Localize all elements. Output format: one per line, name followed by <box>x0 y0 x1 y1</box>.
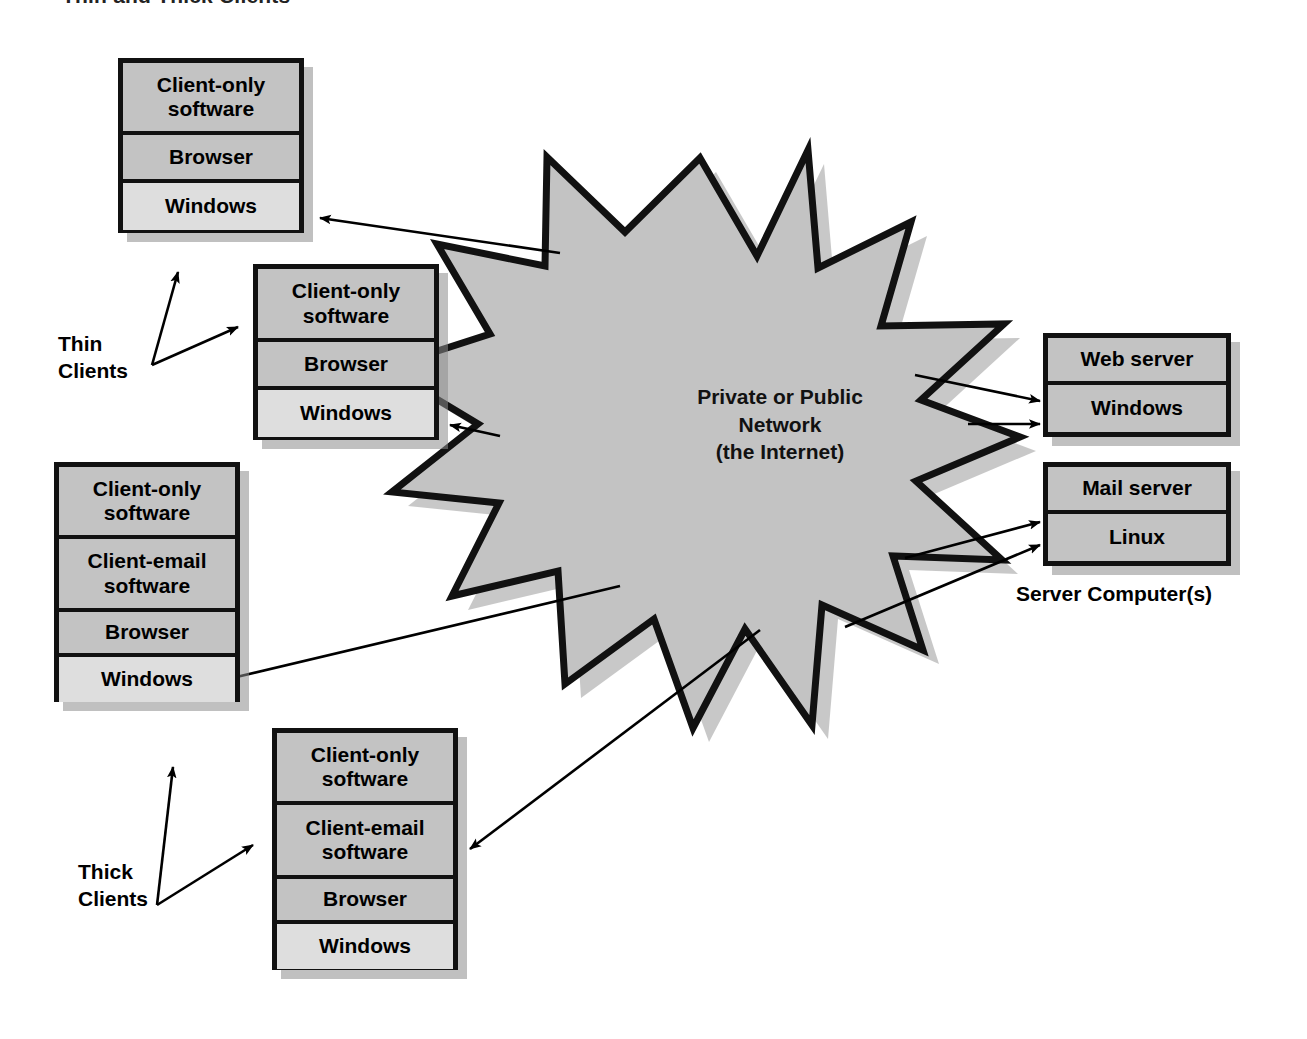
pointer-thick-clients-to-box-2 <box>157 845 253 905</box>
thick-clients-label: Thick Clients <box>78 858 148 913</box>
thin-clients-label-line-1: Thin <box>58 330 128 357</box>
thin-client-2-stack[interactable]: Client-only software Browser Windows <box>253 264 439 440</box>
thin-clients-label: Thin Clients <box>58 330 128 385</box>
thin-client-1-row-client-only: Client-only software <box>123 63 299 135</box>
thick-client-2-row-client-only: Client-only software <box>277 733 453 805</box>
thick-client-2-row-windows: Windows <box>277 924 453 969</box>
web-server-row-title: Web server <box>1048 338 1226 385</box>
thick-clients-label-line-1: Thick <box>78 858 148 885</box>
web-server-stack[interactable]: Web server Windows <box>1043 333 1231 437</box>
thin-clients-label-line-2: Clients <box>58 357 128 384</box>
thick-client-1-row-client-only: Client-only software <box>59 467 235 539</box>
thin-client-1-row-browser: Browser <box>123 135 299 183</box>
thick-client-1-row-client-email: Client-email software <box>59 539 235 612</box>
mail-server-row-os: Linux <box>1048 514 1226 561</box>
pointer-thin-clients-to-box-1 <box>152 272 178 365</box>
thick-client-2-row-browser: Browser <box>277 879 453 924</box>
thin-client-1-stack[interactable]: Client-only software Browser Windows <box>118 58 304 233</box>
thin-client-1-row-windows: Windows <box>123 183 299 230</box>
thin-client-2-row-browser: Browser <box>258 342 434 390</box>
thick-client-2-stack[interactable]: Client-only software Client-email softwa… <box>272 728 458 970</box>
thick-clients-label-line-2: Clients <box>78 885 148 912</box>
server-computers-label: Server Computer(s) <box>1016 580 1212 607</box>
thick-client-1-row-windows: Windows <box>59 657 235 702</box>
pointer-thick-clients-to-box-1 <box>157 767 173 905</box>
thick-client-1-row-browser: Browser <box>59 612 235 657</box>
pointer-thin-clients-to-box-2 <box>152 327 238 365</box>
thick-client-1-stack[interactable]: Client-only software Client-email softwa… <box>54 462 240 702</box>
thin-client-2-row-windows: Windows <box>258 390 434 437</box>
thick-client-2-row-client-email: Client-email software <box>277 805 453 879</box>
diagram-canvas: Thin and Thick Clients <box>0 0 1307 1039</box>
mail-server-row-title: Mail server <box>1048 467 1226 514</box>
thin-client-2-row-client-only: Client-only software <box>258 269 434 342</box>
mail-server-stack[interactable]: Mail server Linux <box>1043 462 1231 566</box>
web-server-row-os: Windows <box>1048 385 1226 432</box>
